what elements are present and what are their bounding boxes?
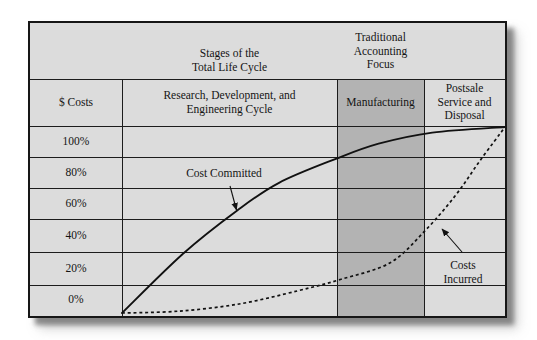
costs-axis-header: $ Costs (30, 79, 122, 126)
ytick-40: 40% (30, 219, 122, 252)
life-cycle-cost-chart: Stages of the Total Life Cycle Tradition… (28, 21, 507, 318)
ytick-100: 100% (30, 126, 122, 157)
cost-committed-label: Cost Committed (157, 167, 291, 181)
ytick-0: 0% (30, 285, 122, 315)
costs-incurred-arrow (442, 229, 462, 252)
postsale-header: Postsale Service and Disposal (424, 79, 505, 126)
costs-incurred-label: Costs Incurred (423, 259, 503, 286)
traditional-accounting-focus-label: Traditional Accounting Focus (337, 31, 424, 72)
manufacturing-header: Manufacturing (337, 79, 424, 126)
rde-cycle-header: Research, Development, and Engineering C… (122, 79, 337, 126)
figure-canvas: Stages of the Total Life Cycle Tradition… (0, 0, 537, 340)
cost-committed-arrow (230, 186, 237, 210)
ytick-20: 20% (30, 252, 122, 285)
ytick-80: 80% (30, 157, 122, 188)
stages-header-label: Stages of the Total Life Cycle (122, 47, 337, 74)
ytick-60: 60% (30, 188, 122, 219)
